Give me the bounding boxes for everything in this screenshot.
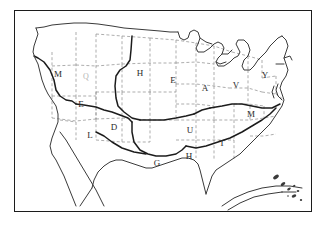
label-m-carolina: M: [247, 110, 255, 119]
map-figure: MQHEAVYEMDLUTGH: [0, 0, 327, 230]
label-l-desert: L: [87, 131, 93, 140]
label-h-plains: H: [137, 69, 144, 78]
label-e-greatbasin: E: [78, 100, 84, 109]
map-frame-border: [14, 10, 312, 212]
label-y-northeast: Y: [262, 71, 269, 80]
label-m-northwest: M: [54, 70, 62, 79]
label-e-midwest: E: [170, 76, 176, 85]
label-d-southwest: D: [111, 123, 118, 132]
label-a-ohio: A: [202, 84, 209, 93]
label-t-southeast: T: [219, 139, 225, 148]
label-u-tennessee: U: [187, 126, 194, 135]
label-v-appal: V: [233, 81, 240, 90]
label-q-interior: Q: [83, 72, 89, 81]
label-h-gulf: H: [186, 152, 193, 161]
label-g-texas: G: [154, 159, 161, 168]
